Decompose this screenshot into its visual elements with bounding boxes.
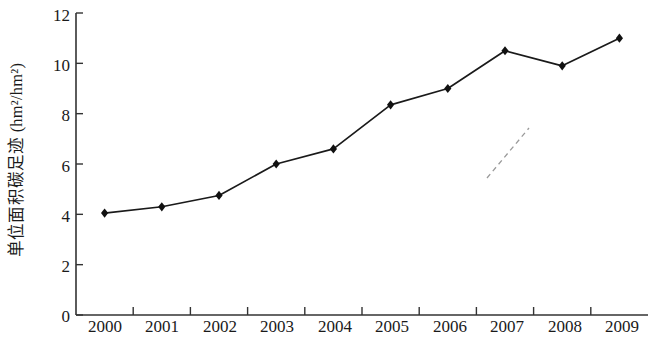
scan-artifact-dashed-line: [487, 128, 529, 178]
y-tick-label-8: 8: [36, 107, 70, 124]
data-point-marker: [387, 100, 394, 109]
data-point-marker: [101, 208, 108, 217]
chart-figure: 单位面积碳足迹 (hm²/hm²) 12 10 8 6 4 2 0 2000 2…: [0, 0, 648, 349]
scan-artifact-dashed-line: [487, 128, 529, 178]
x-tick-label-2003: 2003: [246, 318, 308, 335]
x-tick-label-2006: 2006: [419, 318, 481, 335]
x-tick-label-2004: 2004: [304, 318, 366, 335]
x-tick-label-2008: 2008: [534, 318, 596, 335]
data-point-marker: [273, 159, 280, 168]
data-point-marker: [158, 202, 165, 211]
data-point-marker: [215, 191, 222, 200]
x-tick-label-2007: 2007: [476, 318, 538, 335]
data-series-line: [105, 38, 620, 213]
y-axis-tick-labels: 12 10 8 6 4 2 0: [32, 0, 70, 349]
x-tick-label-2000: 2000: [74, 318, 136, 335]
y-tick-label-0: 0: [36, 308, 70, 325]
x-axis-ticks: [133, 307, 591, 315]
y-tick-label-2: 2: [36, 258, 70, 275]
y-axis-ticks: [76, 13, 83, 315]
y-axis-title-text: 单位面积碳足迹 (hm²/hm²): [3, 63, 27, 257]
x-tick-label-2005: 2005: [361, 318, 423, 335]
data-point-marker: [330, 144, 337, 153]
y-tick-label-6: 6: [36, 158, 70, 175]
y-tick-label-4: 4: [36, 208, 70, 225]
y-axis-title: 单位面积碳足迹 (hm²/hm²): [0, 0, 30, 320]
data-point-marker: [501, 46, 508, 55]
y-tick-label-10: 10: [36, 57, 70, 74]
y-tick-label-12: 12: [36, 7, 70, 24]
x-tick-label-2009: 2009: [591, 318, 648, 335]
data-point-marker: [616, 34, 623, 43]
x-tick-label-2002: 2002: [189, 318, 251, 335]
axes: [76, 13, 648, 315]
plot-area: [0, 0, 648, 349]
data-point-marker: [559, 61, 566, 70]
x-tick-label-2001: 2001: [131, 318, 193, 335]
data-point-marker: [444, 84, 451, 93]
